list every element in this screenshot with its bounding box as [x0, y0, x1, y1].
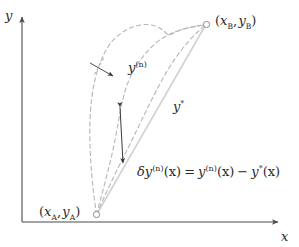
- endpoint-a-comma: ,: [57, 204, 61, 219]
- extremal-path-line: [97, 26, 205, 214]
- variation-gap-arrow: [120, 107, 123, 163]
- endpoint-a-y-var: y: [62, 204, 69, 219]
- eq-lhs-arg: (x): [164, 164, 181, 179]
- endpoint-a-label: (xA, yA): [39, 205, 80, 218]
- varied-path-pointer-arrow: [90, 63, 113, 76]
- eq-rhs1-arg: (x): [217, 164, 234, 179]
- eq-equals: =: [181, 164, 198, 179]
- endpoint-b-label: (xB, yB): [215, 14, 256, 27]
- eq-minus: −: [234, 164, 251, 179]
- extremal-path-superscript: *: [180, 99, 184, 108]
- eq-delta: δ: [137, 164, 145, 179]
- endpoint-b-comma: ,: [233, 13, 237, 28]
- endpoint-a-paren-close: ): [75, 204, 80, 219]
- varied-path-curve-outer: [90, 24, 206, 214]
- x-axis-label: x: [281, 230, 288, 243]
- endpoint-b-marker: [203, 21, 209, 27]
- y-axis-label: y: [5, 9, 12, 22]
- eq-rhs2-var: y: [251, 164, 258, 179]
- varied-path-label: y(n): [128, 61, 147, 74]
- eq-rhs2-arg: (x): [263, 164, 280, 179]
- endpoint-a-marker: [93, 211, 99, 217]
- variation-equation-label: δy(n)(x)=y(n)(x)−y*(x): [137, 165, 280, 178]
- endpoint-b-y-var: y: [238, 13, 245, 28]
- eq-lhs-sup: (n): [152, 164, 163, 173]
- varied-path-superscript: (n): [135, 60, 146, 69]
- variational-calculus-figure: y x (xB, yB) (xA, yA) y(n) y* δy(n)(x)=y…: [0, 0, 299, 247]
- extremal-path-label: y*: [173, 100, 184, 113]
- eq-rhs1-sup: (n): [205, 164, 216, 173]
- endpoint-b-paren-close: ): [251, 13, 256, 28]
